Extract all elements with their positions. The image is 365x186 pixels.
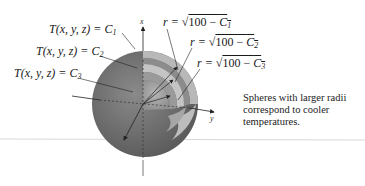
radius-label-c1: r = √100 − C1 <box>163 15 231 33</box>
vertical-axis-label: x <box>140 17 144 26</box>
level-surface-label-c3: T(x, y, z) = C3 <box>14 66 81 84</box>
caption-line: Spheres with larger radii <box>243 92 363 104</box>
caption-line: correspond to cooler <box>243 104 363 116</box>
radius-label-c3: r = √100 − C3 <box>197 56 265 74</box>
figure: x y T(x, y, z) = C1 T(x, y, z) = C2 T(x,… <box>0 0 365 186</box>
radius-label-c2: r = √100 − C2 <box>190 35 258 53</box>
y-axis-label: y <box>210 114 214 123</box>
level-surface-label-c1: T(x, y, z) = C1 <box>49 22 116 40</box>
figure-caption: Spheres with larger radii correspond to … <box>243 92 363 128</box>
level-surface-label-c2: T(x, y, z) = C2 <box>36 44 103 62</box>
caption-line: temperatures. <box>243 116 363 128</box>
